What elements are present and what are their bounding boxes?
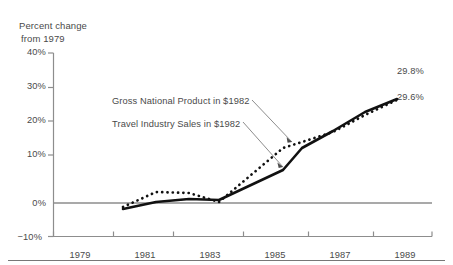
x-axis-ticks [54,232,433,237]
leader-line-gnp [252,100,292,143]
leader-line-travel [243,122,283,168]
series-line-travel-industry-sales [123,99,397,209]
chart-figure: Percent changefrom 1979 40% 30% 20% 10% … [0,0,453,265]
y-axis-ticks [48,53,54,237]
chart-plot-area [0,0,453,265]
